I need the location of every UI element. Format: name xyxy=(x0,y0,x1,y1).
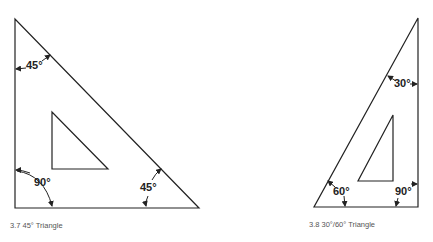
triangle-45: 45° 90° 45° 3.7 45° Triangle xyxy=(10,19,199,230)
triangle-30-60-outline xyxy=(314,18,418,207)
caption-fig-3-8: 3.8 30°/60° Triangle xyxy=(309,220,375,229)
angle-label-90-right: 90° xyxy=(395,185,412,197)
triangle-30-60: 30° 60° 90° 3.8 30°/60° Triangle xyxy=(309,18,418,229)
angle-label-60: 60° xyxy=(333,185,350,197)
triangle-30-60-cutout xyxy=(358,115,393,181)
angle-label-top-45: 45° xyxy=(26,59,43,71)
angle-label-30: 30° xyxy=(394,77,411,89)
caption-fig-3-7: 3.7 45° Triangle xyxy=(10,221,63,230)
triangles-diagram: 45° 90° 45° 3.7 45° Triangle 30° 60° 90°… xyxy=(0,0,433,242)
angle-label-bottom-45: 45° xyxy=(140,181,157,193)
angle-label-90: 90° xyxy=(34,176,51,188)
triangle-45-cutout xyxy=(52,112,108,169)
